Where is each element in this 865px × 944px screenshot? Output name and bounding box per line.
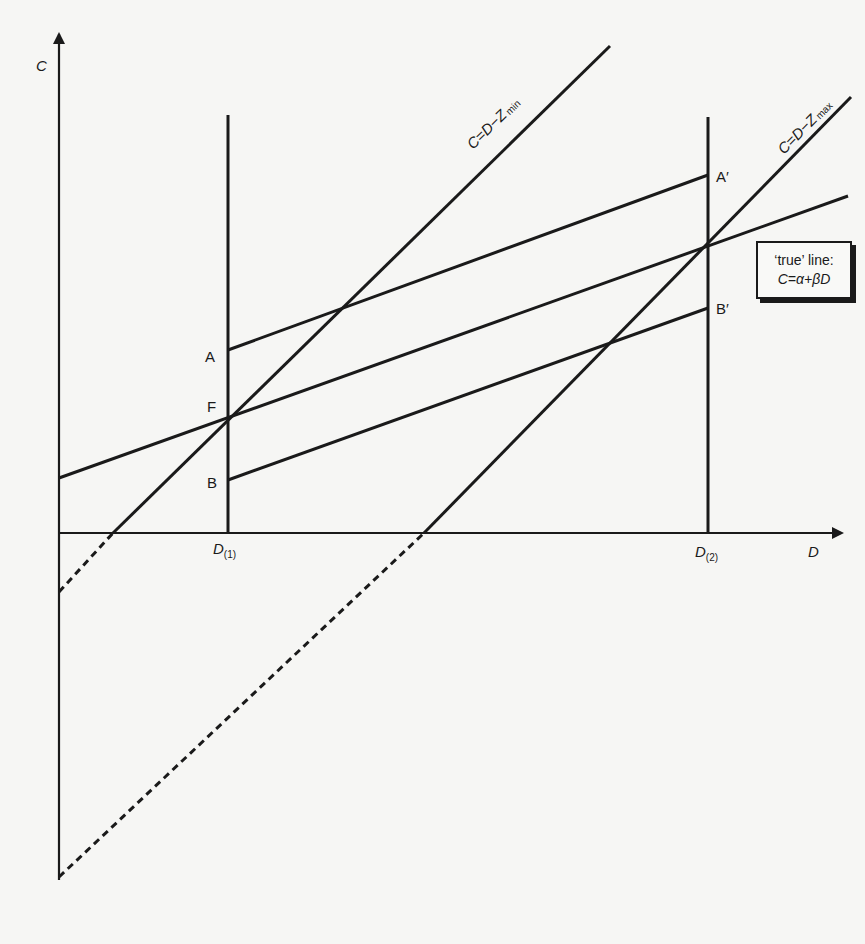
d2-label: D(2) (695, 543, 718, 563)
legend-equation: C=α+βD (758, 270, 850, 289)
d1-label: D(1) (213, 540, 236, 560)
lower-bound-line (228, 308, 708, 480)
d-axis-label: D (808, 543, 819, 560)
d1-label-sub: (1) (224, 549, 236, 560)
d2-label-main: D (695, 543, 706, 560)
d1-label-main: D (213, 540, 224, 557)
zmax-line-label: C=D−Zmax (774, 96, 835, 157)
svg-text:C=D−Zmin: C=D−Zmin (463, 93, 522, 152)
point-b-prime-label: B′ (716, 300, 729, 317)
legend-title: ‘true’ line: (758, 251, 850, 270)
zmin-label-sub: min (503, 98, 522, 117)
zmin-line-dashed (59, 533, 113, 592)
point-a-prime-label: A′ (716, 168, 729, 185)
zmax-line (424, 97, 851, 533)
true-line-legend-box: ‘true’ line: C=α+βD (756, 241, 852, 299)
d2-label-sub: (2) (706, 552, 718, 563)
diagram-canvas: C D D(1) D(2) A F B A′ B′ C=D−Zmin C=D−Z… (0, 0, 865, 944)
zmin-label-main: C=D−Z (463, 106, 510, 153)
zmin-line-label: C=D−Zmin (463, 93, 522, 152)
upper-bound-line (228, 175, 708, 350)
point-f-label: F (207, 398, 216, 415)
c-axis-label: C (36, 57, 47, 74)
zmin-line (113, 46, 610, 533)
point-a-label: A (205, 348, 215, 365)
zmax-line-dashed (59, 533, 424, 877)
svg-text:C=D−Zmax: C=D−Zmax (774, 96, 835, 157)
point-b-label: B (207, 474, 217, 491)
true-line (59, 196, 848, 478)
